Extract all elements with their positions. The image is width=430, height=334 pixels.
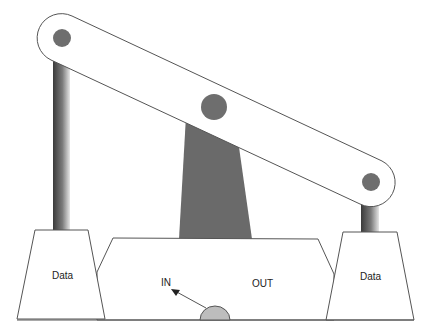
linkage-diagram: Data IN OUT Data [0, 0, 430, 334]
right-data-label: Data [360, 271, 382, 282]
left-data-label: Data [52, 270, 74, 281]
right-pivot-icon [362, 173, 380, 191]
center-pivot-icon [201, 94, 227, 120]
out-label: OUT [252, 278, 273, 289]
in-label: IN [161, 277, 171, 288]
left-post [53, 48, 70, 232]
left-pivot-icon [53, 29, 71, 47]
